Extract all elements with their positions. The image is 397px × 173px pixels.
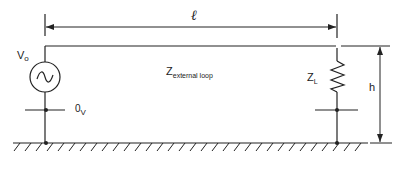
height-dimension bbox=[370, 47, 392, 143]
length-label: ℓ bbox=[191, 9, 197, 23]
junction-dot-right bbox=[335, 108, 339, 112]
source-label: Vo bbox=[17, 50, 29, 63]
resistor-zigzag-icon bbox=[331, 61, 344, 92]
source-label-sub: o bbox=[24, 54, 28, 63]
circuit-diagram: ℓ Vo 0V Zexternal loop ZL h bbox=[0, 0, 397, 173]
sine-wave-icon bbox=[37, 72, 53, 82]
load-label-main: Z bbox=[307, 71, 314, 83]
ac-source bbox=[25, 62, 65, 145]
ground-hatching bbox=[14, 143, 361, 151]
impedance-label-sub: external loop bbox=[173, 72, 213, 79]
ground-plane bbox=[13, 143, 368, 151]
load-label-sub: L bbox=[314, 78, 318, 85]
junction-dot-left bbox=[44, 108, 48, 112]
load-label: ZL bbox=[307, 72, 318, 85]
impedance-label: Zexternal loop bbox=[166, 66, 213, 79]
impedance-label-main: Z bbox=[166, 65, 173, 77]
load-resistor bbox=[315, 48, 358, 145]
diagram-canvas bbox=[0, 0, 397, 173]
reference-label-sub: V bbox=[81, 108, 86, 117]
height-label: h bbox=[369, 82, 375, 93]
conductor-wire bbox=[45, 46, 390, 62]
reference-label: 0V bbox=[75, 104, 86, 117]
